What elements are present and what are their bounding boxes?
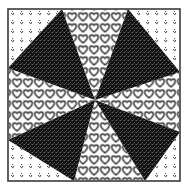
pinwheel-figure: Pinwheel Wedge Pattern Square tile with … — [0, 0, 188, 189]
pinwheel-svg-root — [0, 0, 188, 189]
